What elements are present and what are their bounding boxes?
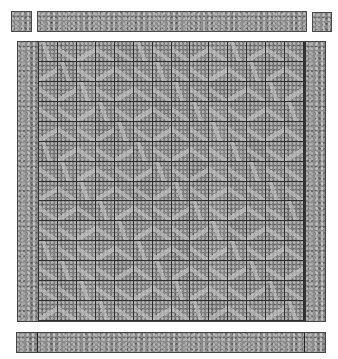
top-right-tile: [312, 12, 332, 32]
grid-tile: [266, 241, 285, 261]
grid-tile: [247, 221, 266, 241]
grid-tile: [172, 182, 191, 202]
grid-tile: [96, 241, 115, 261]
grid-tile: [190, 261, 209, 281]
grid-tile: [266, 122, 285, 142]
grid-tile: [228, 122, 247, 142]
grid-tile: [228, 82, 247, 102]
grid-tile: [190, 102, 209, 122]
grid-tile: [134, 281, 153, 301]
grid-tile: [58, 261, 77, 281]
bottom-bar-right-segment: [305, 333, 325, 352]
grid-tile: [58, 221, 77, 241]
grid-tile: [172, 221, 191, 241]
grid-tile: [39, 122, 58, 142]
grid-tile: [172, 82, 191, 102]
grid-tile: [209, 241, 228, 261]
grid-tile: [153, 221, 172, 241]
grid-tile: [247, 62, 266, 82]
grid-tile: [228, 201, 247, 221]
grid-tile: [115, 241, 134, 261]
grid-tile: [58, 201, 77, 221]
right-column-strip: [305, 42, 325, 321]
grid-tile: [285, 42, 304, 62]
left-column-strip: [18, 42, 38, 321]
grid-tile: [39, 261, 58, 281]
grid-tile: [228, 182, 247, 202]
grid-tile: [39, 201, 58, 221]
bottom-bar-left-segment: [17, 333, 38, 352]
grid-tile: [134, 62, 153, 82]
grid-tile: [247, 241, 266, 261]
grid-tile: [153, 301, 172, 321]
grid-tile: [96, 42, 115, 62]
grid-tile: [172, 241, 191, 261]
grid-tile: [228, 102, 247, 122]
grid-tile: [209, 142, 228, 162]
grid-tile: [134, 102, 153, 122]
grid-tile: [209, 281, 228, 301]
grid-tile: [134, 162, 153, 182]
grid-tile: [285, 82, 304, 102]
grid-tile: [58, 62, 77, 82]
grid-tile: [115, 261, 134, 281]
grid-tile: [247, 301, 266, 321]
bottom-bar-middle-segment: [38, 333, 305, 352]
grid-tile: [134, 122, 153, 142]
grid-tile: [266, 162, 285, 182]
grid-tile: [96, 221, 115, 241]
tile-grid-cells: [38, 42, 305, 321]
grid-tile: [209, 42, 228, 62]
grid-tile: [266, 142, 285, 162]
grid-tile: [266, 261, 285, 281]
grid-tile: [228, 42, 247, 62]
grid-tile: [228, 261, 247, 281]
grid-tile: [39, 142, 58, 162]
grid-tile: [247, 42, 266, 62]
grid-tile: [153, 102, 172, 122]
grid-tile: [96, 261, 115, 281]
grid-tile: [209, 201, 228, 221]
top-left-tile: [11, 11, 32, 32]
grid-tile: [190, 201, 209, 221]
grid-tile: [285, 241, 304, 261]
grid-tile: [115, 301, 134, 321]
grid-tile: [228, 301, 247, 321]
grid-tile: [190, 301, 209, 321]
grid-tile: [228, 281, 247, 301]
grid-tile: [77, 221, 96, 241]
grid-tile: [172, 102, 191, 122]
grid-tile: [190, 241, 209, 261]
grid-tile: [96, 281, 115, 301]
grid-tile: [209, 221, 228, 241]
grid-tile: [77, 201, 96, 221]
grid-tile: [96, 122, 115, 142]
grid-tile: [190, 42, 209, 62]
grid-tile: [190, 122, 209, 142]
grid-tile: [134, 301, 153, 321]
grid-tile: [96, 182, 115, 202]
grid-tile: [39, 102, 58, 122]
grid-tile: [115, 201, 134, 221]
grid-tile: [228, 162, 247, 182]
grid-tile: [153, 162, 172, 182]
grid-tile: [247, 142, 266, 162]
grid-tile: [134, 201, 153, 221]
grid-tile: [96, 301, 115, 321]
grid-tile: [190, 281, 209, 301]
grid-tile: [285, 221, 304, 241]
grid-tile: [285, 201, 304, 221]
grid-tile: [153, 82, 172, 102]
grid-tile: [115, 42, 134, 62]
grid-tile: [172, 62, 191, 82]
grid-tile: [58, 301, 77, 321]
grid-tile: [39, 42, 58, 62]
grid-tile: [115, 102, 134, 122]
grid-tile: [58, 42, 77, 62]
grid-tile: [190, 82, 209, 102]
grid-tile: [58, 142, 77, 162]
grid-tile: [134, 241, 153, 261]
grid-tile: [58, 162, 77, 182]
grid-tile: [228, 221, 247, 241]
grid-tile: [96, 162, 115, 182]
